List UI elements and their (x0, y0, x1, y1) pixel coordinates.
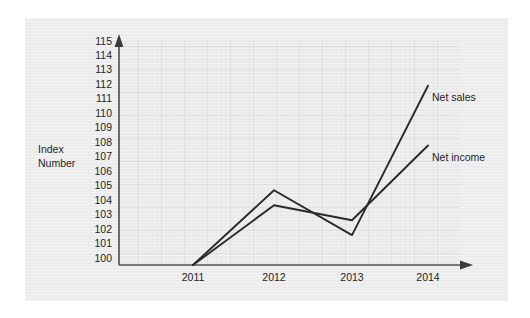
y-tick-109: 109 (80, 122, 112, 133)
y-tick-114: 114 (80, 50, 112, 61)
y-tick-101: 101 (80, 238, 112, 249)
x-tick-2011: 2011 (171, 272, 215, 283)
y-tick-103: 103 (80, 209, 112, 220)
y-tick-108: 108 (80, 137, 112, 148)
y-tick-107: 107 (80, 151, 112, 162)
series-label-net-income: Net income (432, 152, 485, 163)
y-tick-106: 106 (80, 166, 112, 177)
y-tick-111: 111 (80, 93, 112, 104)
x-tick-2013: 2013 (330, 272, 374, 283)
y-tick-100: 100 (80, 253, 112, 264)
y-tick-112: 112 (80, 79, 112, 90)
y-tick-110: 110 (80, 108, 112, 119)
x-tick-2012: 2012 (252, 272, 296, 283)
y-tick-113: 113 (80, 64, 112, 75)
plot-grid-area (119, 41, 460, 265)
chart-figure: Index Number 115 114 113 112 111 110 109… (0, 0, 530, 318)
y-tick-102: 102 (80, 224, 112, 235)
y-tick-104: 104 (80, 195, 112, 206)
y-tick-115: 115 (80, 36, 112, 47)
y-tick-105: 105 (80, 180, 112, 191)
series-label-net-sales: Net sales (432, 92, 476, 103)
x-tick-2014: 2014 (406, 272, 450, 283)
